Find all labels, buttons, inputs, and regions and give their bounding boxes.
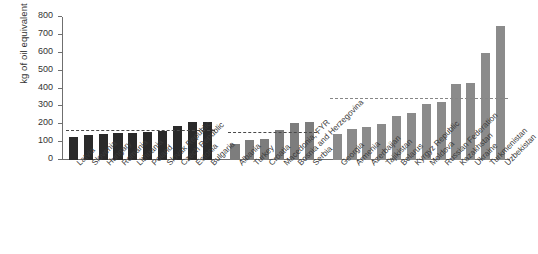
bar[interactable]: [333, 134, 342, 160]
y-axis-line: [62, 17, 63, 160]
y-axis-tick-label: 600: [38, 46, 53, 57]
y-axis-tick-label: 800: [38, 10, 53, 21]
bar[interactable]: [69, 137, 78, 160]
group-average-reference-line: [228, 132, 317, 133]
y-axis-tick: 500: [58, 70, 62, 71]
y-axis-tick-label: 100: [38, 135, 53, 146]
x-axis-labels: LatviaSloveniaHungaryRomaniaLithuaniaPol…: [62, 161, 517, 254]
y-axis-tick: 600: [58, 52, 62, 53]
y-axis-tick-label: 500: [38, 64, 53, 75]
y-axis-tick: 100: [58, 141, 62, 142]
y-axis-tick: 800: [58, 16, 62, 17]
y-axis-tick: 300: [58, 105, 62, 106]
y-axis-tick-label: 0: [48, 153, 53, 164]
y-axis-tick-label: 700: [38, 28, 53, 39]
y-axis-tick: 400: [58, 88, 62, 89]
y-axis-tick-label: 200: [38, 117, 53, 128]
group-average-reference-line: [66, 130, 215, 131]
y-axis-tick: 700: [58, 34, 62, 35]
y-axis-tick-label: 400: [38, 82, 53, 93]
y-axis-tick-label: 300: [38, 99, 53, 110]
y-axis-tick: 0: [58, 159, 62, 160]
y-axis-tick: 200: [58, 123, 62, 124]
bar[interactable]: [496, 26, 505, 160]
y-axis-title: kg of oil equivalent: [18, 0, 29, 104]
